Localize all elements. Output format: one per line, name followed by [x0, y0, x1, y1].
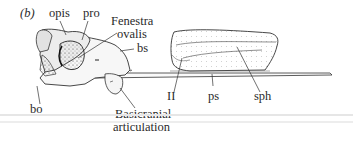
divider-rule	[0, 114, 353, 116]
label-ovalis: ovalis	[117, 28, 147, 41]
parasphenoid-rod	[95, 71, 332, 78]
label-pro: pro	[83, 7, 100, 20]
sphenethmoid-bone	[171, 30, 278, 71]
braincase-figure: (b) opis pro Fenestra ovalis bs bo Basic…	[0, 0, 353, 143]
label-ps: ps	[208, 90, 219, 103]
label-bs: bs	[137, 42, 148, 55]
divider-rule-2	[0, 121, 353, 123]
label-II: II	[167, 90, 175, 103]
label-sph: sph	[254, 90, 271, 103]
panel-label: (b)	[20, 7, 35, 20]
label-opis: opis	[49, 7, 70, 20]
